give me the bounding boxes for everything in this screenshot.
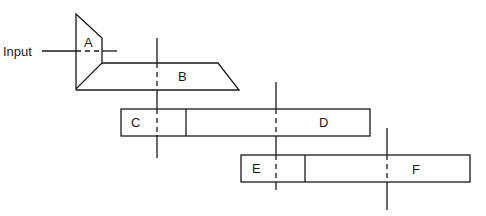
- component-f-label: F: [412, 162, 420, 177]
- input-label: Input: [3, 44, 32, 59]
- diagram-canvas: Input A B C D E F: [0, 0, 486, 216]
- component-cd-bar: C D: [121, 109, 370, 136]
- component-b-label: B: [178, 69, 187, 84]
- component-a-label: A: [84, 35, 93, 50]
- component-e-label: E: [252, 161, 261, 176]
- component-c-label: C: [131, 115, 140, 130]
- component-d-label: D: [319, 115, 328, 130]
